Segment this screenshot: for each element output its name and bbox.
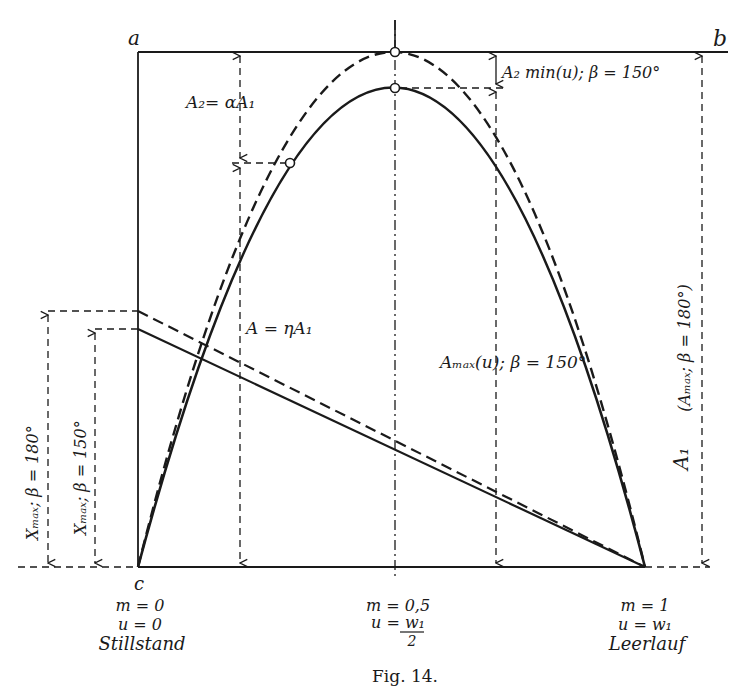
svg-text:u = w₁: u = w₁ xyxy=(618,615,672,634)
svg-text:Leerlauf: Leerlauf xyxy=(608,633,689,654)
axis-point-right: m = 1 u = w₁ Leerlauf xyxy=(608,596,689,654)
label-a-eta: A = ηA₁ xyxy=(244,318,313,338)
label-a1: A₁ xyxy=(669,448,693,472)
svg-text:Stillstand: Stillstand xyxy=(98,633,185,654)
corner-label-a: a xyxy=(128,26,140,50)
label-a2-alpha: A₂= αA₁ xyxy=(184,92,255,112)
frame xyxy=(18,52,728,567)
label-amax-180: (Aₘₐₓ; β = 180°) xyxy=(675,284,694,411)
label-xmax-150: Xₘₐₓ; β = 150° xyxy=(71,420,90,537)
label-xmax-180: Xₘₐₓ; β = 180° xyxy=(23,425,42,542)
dashed-apex-point xyxy=(391,48,400,57)
solid-parabola xyxy=(138,88,645,568)
svg-text:2: 2 xyxy=(407,633,417,649)
label-amax-u: Aₘₐₓ(u); β = 150° xyxy=(438,352,586,372)
svg-text:u = w₁: u = w₁ xyxy=(371,613,425,632)
dashed-parabola xyxy=(138,52,645,567)
solid-apex-point xyxy=(391,84,400,93)
dim-xmax xyxy=(48,311,138,563)
svg-text:m = 0: m = 0 xyxy=(116,596,165,615)
corner-label-b: b xyxy=(713,26,727,51)
svg-text:u = 0: u = 0 xyxy=(118,615,162,634)
diagram-canvas: a b c A₂= αA₁ A₂ min(u); β = 150° A = ηA… xyxy=(0,0,733,694)
label-a2-min: A₂ min(u); β = 150° xyxy=(500,63,660,82)
dashed-xmax-line xyxy=(138,311,645,567)
dim-a2-min xyxy=(400,56,506,563)
figure-caption: Fig. 14. xyxy=(372,666,438,686)
corner-label-c: c xyxy=(134,573,144,594)
axis-point-left: m = 0 u = 0 Stillstand xyxy=(98,596,185,654)
axis-point-center: m = 0,5 u = w₁ 2 xyxy=(366,596,430,649)
dim-a2-alpha xyxy=(232,56,286,563)
a2-point xyxy=(286,159,295,168)
svg-text:m = 1: m = 1 xyxy=(621,596,670,615)
